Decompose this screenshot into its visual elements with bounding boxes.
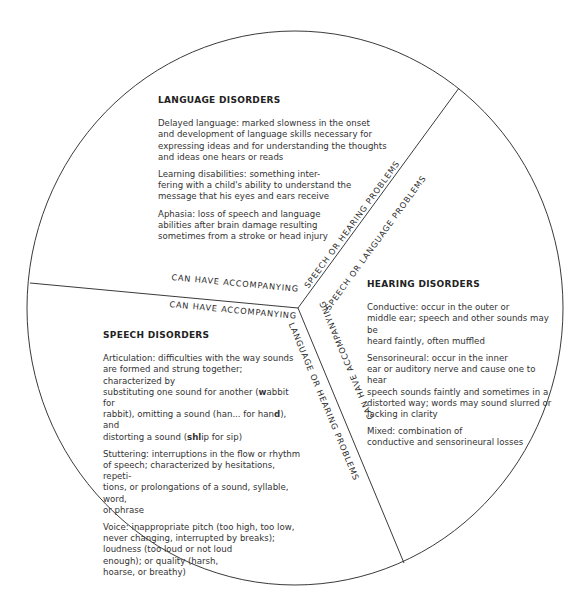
language-item-delayed: Delayed language: marked slowness in the…: [158, 118, 398, 163]
speech-disorders-title: SPEECH DISORDERS: [103, 330, 303, 341]
hearing-item-conductive: Conductive: occur in the outer or middle…: [367, 302, 557, 347]
speech-item-stuttering: Stuttering: interruptions in the flow or…: [103, 449, 303, 516]
speech-item-articulation: Articulation: difficulties with the way …: [103, 353, 303, 443]
language-disorders-section: LANGUAGE DISORDERS Delayed language: mar…: [158, 95, 398, 248]
hearing-item-mixed: Mixed: combination of conductive and sen…: [367, 426, 557, 448]
language-disorders-title: LANGUAGE DISORDERS: [158, 95, 398, 106]
speech-disorders-section: SPEECH DISORDERS Articulation: difficult…: [103, 330, 303, 584]
hearing-disorders-title: HEARING DISORDERS: [367, 279, 557, 290]
language-item-learning: Learning disabilities: something inter- …: [158, 169, 398, 203]
hearing-disorders-section: HEARING DISORDERS Conductive: occur in t…: [367, 279, 557, 455]
speech-item-voice: Voice: inappropriate pitch (too high, to…: [103, 522, 303, 578]
hearing-item-sensorineural: Sensorineural: occur in the inner ear or…: [367, 353, 557, 420]
